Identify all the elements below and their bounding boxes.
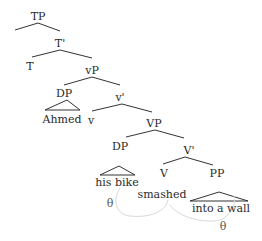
node-dp-subject: DP — [56, 88, 72, 99]
node-pp: PP — [210, 168, 225, 179]
node-dp-object: DP — [112, 141, 128, 152]
leaf-subject: Ahmed — [42, 114, 81, 125]
node-little-v-bar: v' — [115, 92, 124, 103]
theta-role-object: θ — [107, 198, 114, 209]
node-t: T — [26, 61, 33, 72]
node-little-v: v — [88, 115, 94, 126]
node-t-bar: T' — [55, 38, 65, 49]
node-vp: VP — [146, 118, 161, 129]
node-v-bar: V' — [184, 145, 195, 156]
leaf-object: his bike — [95, 177, 138, 188]
node-v: V — [160, 168, 168, 179]
theta-role-pp: θ — [220, 221, 227, 232]
node-tp: TP — [31, 11, 46, 22]
leaf-verb: smashed — [138, 189, 187, 200]
node-little-vp: vP — [85, 65, 99, 76]
leaf-pp-text: into a wall — [192, 203, 250, 214]
syntax-tree-diagram: TP T' T vP DP v' Ahmed v VP DP V' his bi… — [0, 0, 262, 241]
